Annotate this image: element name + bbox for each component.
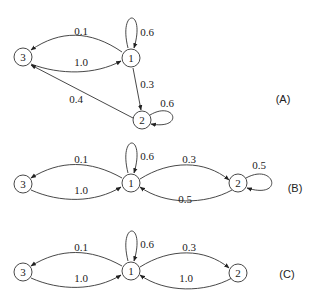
node-b-3: 3	[14, 175, 32, 193]
diagram-a: 0.6 0.1 1.0 0.3 0.6 0.4 1 2 3 (A)	[14, 18, 290, 129]
edge-label-a-1-1: 0.6	[140, 26, 154, 38]
panel-label-b: (B)	[288, 182, 303, 194]
edge-label-b-1-2: 0.3	[182, 153, 196, 165]
svg-text:3: 3	[20, 51, 26, 63]
node-a-3: 3	[14, 48, 32, 66]
edge-label-a-2-2: 0.6	[160, 97, 174, 109]
diagram-b: 0.6 0.1 1.0 0.3 0.5 0.5 1 2 3 (B)	[14, 143, 302, 205]
markov-chain-figure: 0.6 0.1 1.0 0.3 0.6 0.4 1 2 3 (A) 0.6 0.…	[0, 0, 315, 300]
svg-text:2: 2	[139, 114, 145, 126]
edge-label-c-1-3: 0.1	[74, 241, 88, 253]
panel-label-a: (A)	[276, 93, 291, 105]
edge-a-2-3	[31, 65, 133, 118]
edge-b-1-2	[140, 165, 229, 180]
panel-label-c: (C)	[279, 268, 294, 280]
svg-text:3: 3	[20, 178, 26, 190]
edge-label-a-1-2: 0.3	[140, 78, 154, 90]
edge-label-b-1-1: 0.6	[140, 150, 154, 162]
svg-text:2: 2	[235, 267, 241, 279]
edge-label-b-2-1: 0.5	[178, 193, 192, 205]
node-a-1: 1	[122, 49, 140, 67]
node-c-2: 2	[229, 264, 247, 282]
edge-c-1-1	[126, 231, 137, 261]
edge-label-b-1-3: 0.1	[74, 153, 88, 165]
svg-text:1: 1	[128, 265, 134, 277]
svg-text:3: 3	[20, 266, 26, 278]
diagram-c: 0.6 0.1 1.0 0.3 1.0 1 2 3 (C)	[14, 231, 295, 289]
edge-label-c-1-1: 0.6	[140, 238, 154, 250]
node-c-3: 3	[14, 263, 32, 281]
edge-c-1-3	[31, 253, 122, 267]
node-c-1: 1	[122, 262, 140, 280]
edge-label-c-1-2: 0.3	[182, 241, 196, 253]
edge-b-1-1	[126, 143, 137, 173]
edge-b-1-3	[31, 165, 122, 179]
edge-label-b-2-2: 0.5	[252, 159, 266, 171]
edge-b-2-2	[246, 174, 272, 190]
node-a-2: 2	[133, 111, 151, 129]
edge-a-1-3	[31, 35, 122, 52]
edge-label-a-1-3: 0.1	[74, 25, 88, 37]
edge-a-2-2	[150, 111, 173, 125]
node-b-2: 2	[229, 174, 247, 192]
edge-label-c-3-1: 1.0	[74, 272, 88, 284]
edge-c-1-2	[140, 253, 229, 268]
edge-label-a-2-3: 0.4	[69, 93, 83, 105]
edge-label-a-3-1: 1.0	[74, 56, 88, 68]
edge-a-1-1	[126, 18, 137, 48]
edge-label-c-2-1: 1.0	[179, 272, 193, 284]
svg-text:2: 2	[235, 177, 241, 189]
edge-label-b-3-1: 1.0	[74, 184, 88, 196]
svg-text:1: 1	[128, 177, 134, 189]
svg-text:1: 1	[128, 52, 134, 64]
node-b-1: 1	[122, 174, 140, 192]
